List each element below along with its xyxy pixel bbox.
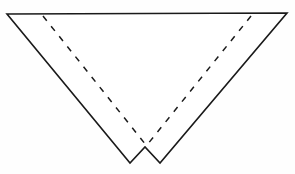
line-drawing-svg (0, 0, 295, 174)
figure-container (0, 0, 295, 174)
